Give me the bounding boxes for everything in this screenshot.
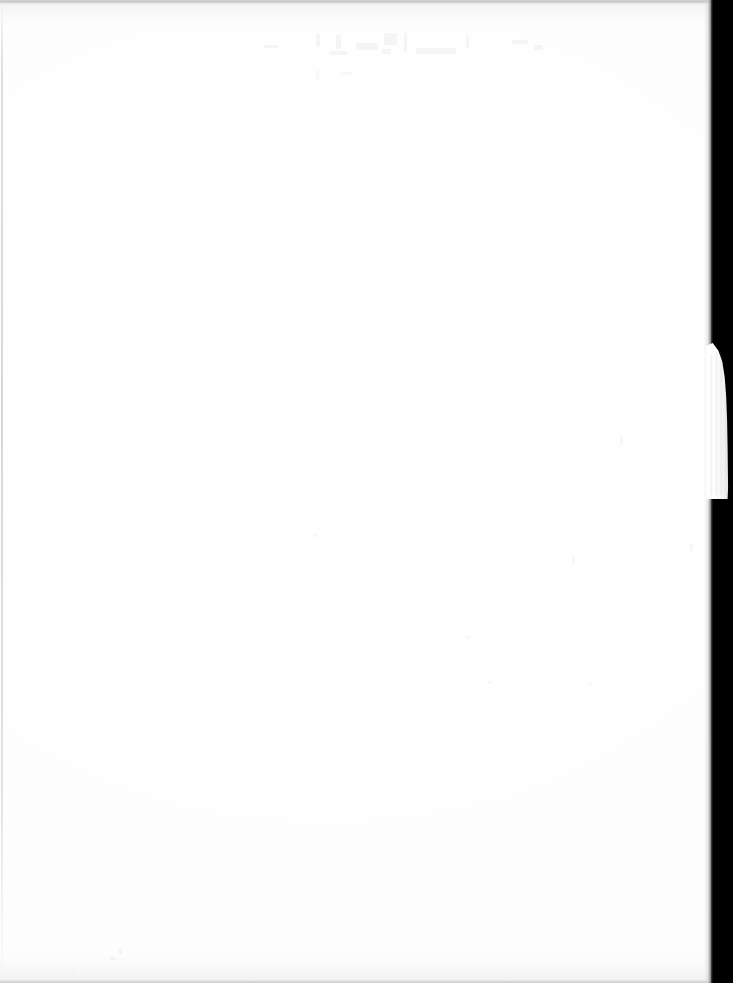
- showthrough-ghost-marks-lower: [316, 68, 356, 80]
- scan-band-top-wash: [0, 4, 711, 30]
- showthrough-ghost-marks: [258, 28, 548, 62]
- paper-sheet: [0, 0, 711, 983]
- scan-band-bottom: [0, 979, 711, 983]
- scanner-bed-margin: [711, 0, 733, 983]
- scan-band-bottom-wash: [0, 950, 711, 980]
- left-scan-seam: [1, 0, 3, 983]
- scan-band-top: [0, 0, 711, 5]
- dust-speck: [690, 544, 693, 551]
- scanned-page-canvas: [0, 0, 733, 983]
- dust-speck: [119, 949, 122, 954]
- page-body-text: [64, 96, 648, 888]
- dust-speck: [70, 970, 74, 972]
- dust-speck: [110, 957, 115, 960]
